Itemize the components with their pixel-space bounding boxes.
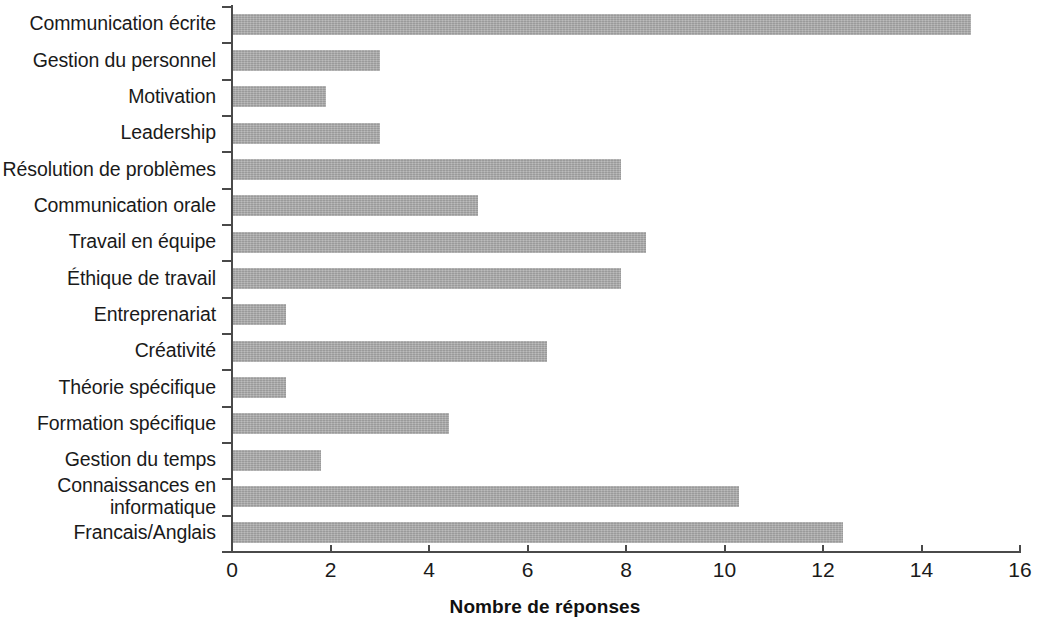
category-label: Créativité: [135, 339, 216, 361]
x-tick: [625, 545, 627, 553]
x-tick: [330, 545, 332, 553]
bar: [232, 159, 621, 180]
bar: [232, 195, 478, 216]
bar: [232, 232, 646, 253]
category-label: Éthique de travail: [67, 267, 216, 289]
category-label: Communication écrite: [29, 12, 216, 34]
y-tick: [222, 79, 232, 81]
bar: [232, 50, 380, 71]
x-tick-label: 12: [803, 558, 843, 582]
bar: [232, 86, 326, 107]
y-tick: [222, 42, 232, 44]
x-tick: [921, 545, 923, 553]
category-label: Connaissances en informatique: [57, 474, 216, 518]
x-tick-label: 10: [705, 558, 745, 582]
y-tick: [222, 478, 232, 480]
x-tick: [724, 545, 726, 553]
x-tick-label: 2: [311, 558, 351, 582]
category-label: Gestion du personnel: [33, 49, 216, 71]
x-tick-label: 14: [902, 558, 942, 582]
x-tick-label: 4: [409, 558, 449, 582]
y-tick: [222, 333, 232, 335]
category-label: Communication orale: [34, 194, 216, 216]
bar: [232, 14, 971, 35]
y-tick: [222, 551, 232, 553]
y-tick: [222, 224, 232, 226]
x-tick-label: 16: [1000, 558, 1040, 582]
y-tick: [222, 115, 232, 117]
x-tick-label: 0: [212, 558, 252, 582]
y-tick: [222, 369, 232, 371]
bar: [232, 486, 739, 507]
x-tick: [822, 545, 824, 553]
bar: [232, 304, 286, 325]
plot-area: [232, 6, 1020, 551]
category-label: Leadership: [121, 121, 217, 143]
y-tick: [222, 260, 232, 262]
y-tick: [222, 188, 232, 190]
y-tick: [222, 151, 232, 153]
chart-page: Communication écriteGestion du personnel…: [0, 0, 1042, 626]
y-tick: [222, 442, 232, 444]
y-tick: [222, 297, 232, 299]
category-label: Entreprenariat: [94, 303, 216, 325]
bar: [232, 413, 449, 434]
category-label: Formation spécifique: [37, 412, 216, 434]
category-label: Résolution de problèmes: [3, 158, 216, 180]
bar: [232, 450, 321, 471]
x-tick-label: 6: [508, 558, 548, 582]
y-axis-category-labels: Communication écriteGestion du personnel…: [0, 0, 224, 552]
x-tick: [428, 545, 430, 553]
x-axis-end-tick: [1019, 545, 1021, 553]
x-tick-label: 8: [606, 558, 646, 582]
category-label: Travail en équipe: [69, 230, 216, 252]
category-label: Théorie spécifique: [58, 376, 216, 398]
y-axis-line: [231, 5, 233, 553]
bar: [232, 268, 621, 289]
y-tick: [222, 6, 232, 8]
x-axis-title: Nombre de réponses: [0, 596, 1042, 618]
y-tick: [222, 515, 232, 517]
category-label: Gestion du temps: [65, 448, 216, 470]
category-label: Motivation: [128, 85, 216, 107]
y-tick: [222, 406, 232, 408]
category-label: Francais/Anglais: [73, 521, 216, 543]
x-tick: [527, 545, 529, 553]
bar: [232, 123, 380, 144]
bar: [232, 341, 547, 362]
bar: [232, 377, 286, 398]
bar: [232, 522, 843, 543]
